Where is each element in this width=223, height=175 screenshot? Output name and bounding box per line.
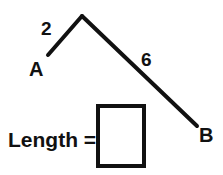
diagram-canvas: 2 6 A B Length = [0,0,223,175]
segment-a-apex [48,16,82,55]
length-prompt-label: Length = [8,128,96,152]
segment-length-label-2: 2 [41,19,52,38]
segment-length-label-6: 6 [141,50,152,69]
answer-input-box[interactable] [96,104,146,168]
point-label-a: A [29,59,43,79]
point-label-b: B [199,125,213,145]
